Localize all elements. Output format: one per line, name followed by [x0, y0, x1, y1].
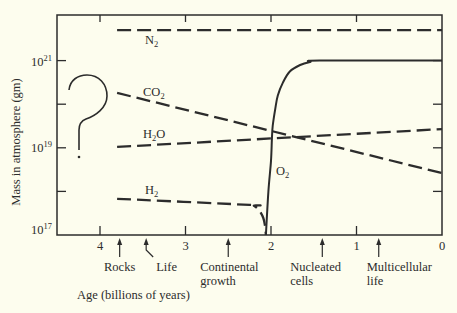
y-tick-label-1e19: 1019	[31, 139, 52, 155]
event-arrow-shaft	[146, 244, 153, 257]
arrow-up-icon	[226, 238, 231, 245]
event-continental-growth: Continentalgrowth	[200, 238, 259, 288]
x-tick-label: 1	[353, 239, 359, 253]
y-tick-label-1e17: 1017	[31, 221, 52, 237]
event-label: cells	[290, 274, 313, 288]
x-tick-label: 0	[439, 239, 445, 253]
x-tick-label: 2	[268, 239, 274, 253]
arrow-up-icon	[117, 238, 122, 245]
series-label-co2: CO2	[143, 85, 165, 101]
event-label: Continental	[200, 260, 259, 274]
axis-ticks	[57, 15, 442, 235]
x-tick-labels: 43210	[97, 239, 445, 253]
series-line-o2	[266, 61, 442, 235]
series-label-o2: O2	[276, 164, 289, 180]
event-label: Multicellular	[367, 260, 433, 274]
question-mark-dot	[78, 156, 81, 159]
series-line-h2	[117, 199, 266, 235]
series-label-h2: H2	[145, 183, 158, 199]
y-axis-title: Mass in atmosphere (gm)	[9, 78, 23, 205]
event-label: growth	[200, 274, 236, 288]
x-tick-label: 4	[97, 239, 104, 253]
event-label: Life	[156, 260, 177, 274]
arrow-up-icon	[376, 238, 381, 245]
x-tick-label: 3	[182, 239, 188, 253]
chart: 43210 1021 1019 1017 N2 CO2 H2O H2 O2 Ro…	[0, 0, 457, 313]
series-lines	[117, 30, 442, 235]
event-label: life	[367, 274, 384, 288]
y-tick-label-1e21: 1021	[31, 53, 52, 69]
event-label: Rocks	[104, 260, 135, 274]
event-rocks: Rocks	[104, 238, 135, 274]
x-axis-title: Age (billions of years)	[77, 288, 190, 302]
event-life: Life	[144, 238, 178, 274]
arrow-up-icon	[320, 238, 325, 245]
series-line-h2o	[117, 129, 442, 147]
event-label: Nucleated	[290, 260, 341, 274]
y-tick-labels: 1021 1019 1017	[31, 53, 52, 237]
question-mark-icon	[69, 75, 107, 150]
series-label-n2: N2	[145, 33, 158, 49]
series-line-co2	[117, 93, 442, 173]
event-nucleated-cells: Nucleatedcells	[290, 238, 341, 288]
series-labels: N2 CO2 H2O H2 O2	[143, 33, 289, 199]
series-label-h2o: H2O	[143, 127, 165, 143]
arrow-up-icon	[144, 238, 149, 245]
question-mark-annotation	[69, 75, 107, 158]
plot-frame	[57, 15, 442, 235]
event-multicellular-life: Multicellularlife	[367, 238, 433, 288]
